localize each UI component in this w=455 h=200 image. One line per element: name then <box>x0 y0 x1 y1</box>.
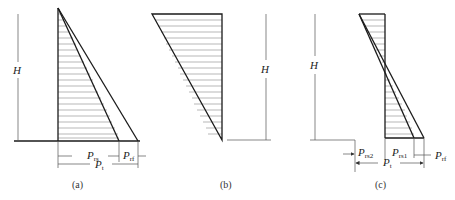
figure-c-height-label: H <box>309 59 319 71</box>
figure-a-height-label: H <box>12 64 22 76</box>
figure-c-ground-step <box>310 140 355 172</box>
figure-c: H Prs2 Prs1 Prf Pt (c) <box>309 14 447 191</box>
figure-c-prs2-label: Prs2 <box>357 146 374 160</box>
figure-b: H (b) <box>152 14 271 191</box>
figure-b-triangle <box>152 14 222 140</box>
pressure-diagram-canvas: H Prs Prf Pt (a) <box>0 0 455 200</box>
figure-c-prs1-label: Prs1 <box>391 146 408 160</box>
figure-a-caption: (a) <box>72 179 83 191</box>
figure-c-inner-slope <box>359 14 414 138</box>
figure-a-outer-slope <box>58 8 138 141</box>
figure-b-caption: (b) <box>220 179 232 191</box>
figure-c-outer-slope <box>359 14 424 138</box>
figure-a-inner-slope <box>58 8 119 141</box>
figure-c-pt-label: Pt <box>382 156 392 170</box>
figure-c-prf-label: Prf <box>434 149 447 163</box>
figure-a-prf-label: Prf <box>122 149 135 163</box>
figure-c-caption: (c) <box>375 179 386 191</box>
figure-b-height-label: H <box>260 63 270 75</box>
figure-a: H Prs Prf Pt (a) <box>12 8 146 191</box>
figure-a-pt-label: Pt <box>94 158 104 172</box>
